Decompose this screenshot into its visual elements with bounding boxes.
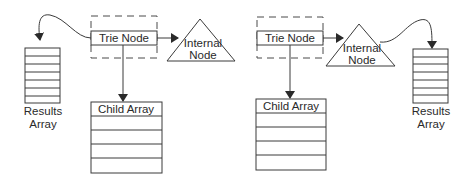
right-child-array: Child Array: [256, 99, 326, 170]
left-results-label-2: Array: [29, 118, 57, 130]
trie-diagram: Trie Node Internal Node Results Array: [0, 0, 469, 183]
right-trie-node: Trie Node: [257, 31, 323, 45]
right-internal-node-label-1: Internal: [343, 42, 381, 54]
right-curved-arrow-to-results: [380, 20, 432, 48]
left-child-array: Child Array: [91, 102, 162, 173]
left-internal-node-label-1: Internal: [184, 37, 222, 49]
left-curved-arrow-to-results: [39, 15, 91, 40]
right-internal-node-label-2: Node: [348, 54, 376, 66]
left-internal-node-label-2: Node: [189, 49, 217, 61]
right-panel: Trie Node Internal Node Results Array: [256, 17, 450, 170]
right-trie-node-label: Trie Node: [265, 32, 315, 44]
left-internal-node: Internal Node: [167, 19, 235, 61]
right-results-label-1: Results: [412, 105, 451, 117]
right-internal-node: Internal Node: [326, 24, 395, 66]
left-trie-node: Trie Node: [91, 31, 157, 45]
right-results-label-2: Array: [417, 118, 445, 130]
left-results-label-1: Results: [24, 105, 63, 117]
left-results-array: Results Array: [24, 48, 63, 130]
left-panel: Trie Node Internal Node Results Array: [24, 15, 235, 173]
left-trie-node-label: Trie Node: [99, 32, 149, 44]
right-child-array-label: Child Array: [263, 100, 319, 112]
left-child-array-label: Child Array: [98, 103, 154, 115]
right-results-array: Results Array: [412, 49, 451, 130]
